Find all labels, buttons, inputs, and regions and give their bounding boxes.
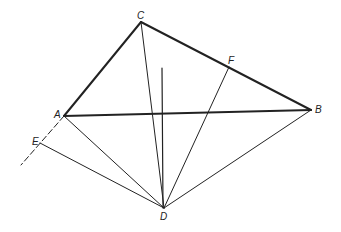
dashed-extension-AE xyxy=(21,116,64,165)
segment-AB xyxy=(64,110,311,116)
diagram-canvas xyxy=(0,0,341,232)
label-B: B xyxy=(315,105,322,115)
vertical-line xyxy=(162,68,163,208)
segment-AC xyxy=(64,22,141,116)
segment-AD xyxy=(64,116,164,208)
label-E: E xyxy=(32,137,39,147)
geometry-diagram: C F B A E D xyxy=(0,0,341,232)
label-A: A xyxy=(54,110,61,120)
label-F: F xyxy=(228,56,234,66)
segment-CB xyxy=(141,22,311,110)
label-C: C xyxy=(137,11,144,21)
label-D: D xyxy=(160,212,167,222)
segment-ED xyxy=(40,143,164,208)
